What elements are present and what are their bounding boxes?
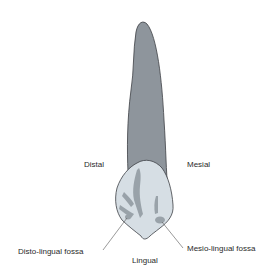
label-mesio-lingual-fossa: Mesio-lingual fossa — [187, 245, 255, 253]
leader-disto-lingual — [103, 218, 127, 250]
label-mesial: Mesial — [187, 161, 210, 169]
tooth-crown — [116, 160, 173, 239]
label-distal: Distal — [84, 161, 104, 169]
tooth-diagram: Distal Mesial Disto-lingual fossa Mesio-… — [0, 0, 277, 277]
leader-mesio-lingual — [162, 222, 183, 248]
label-lingual: Lingual — [132, 257, 158, 265]
label-disto-lingual-fossa: Disto-lingual fossa — [18, 248, 83, 256]
tooth-illustration — [0, 0, 277, 277]
